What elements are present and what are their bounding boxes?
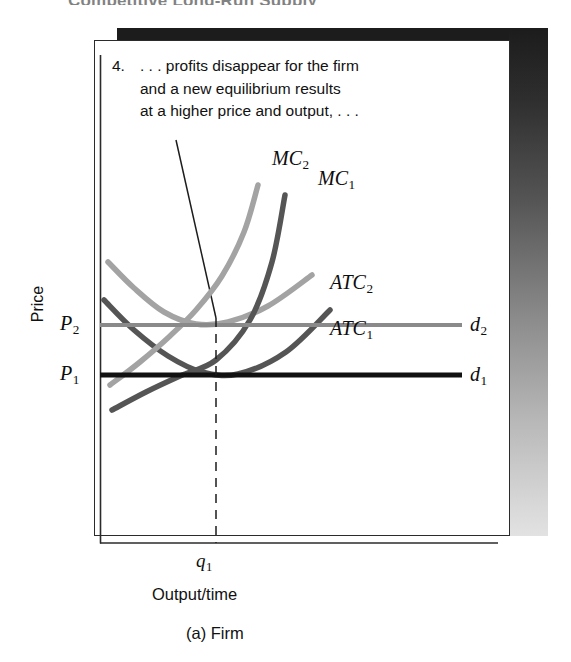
curve-label-atc2: ATC2	[330, 272, 373, 295]
y-axis-label: Price	[30, 264, 46, 344]
curve-mc1	[112, 195, 285, 410]
price-label-p1: P1	[60, 363, 79, 386]
curve-label-mc1: MC1	[318, 168, 355, 191]
figure-caption: (a) Firm	[186, 625, 244, 642]
curve-label-d2: d2	[470, 314, 487, 337]
price-label-p2: P2	[60, 313, 79, 336]
curve-label-d1: d1	[470, 364, 487, 387]
x-axis-label: Output/time	[152, 586, 237, 603]
curve-label-atc1: ATC1	[330, 318, 373, 341]
figure-root: Competitive Long-Run Supply 4. . . . pro…	[0, 0, 571, 662]
curve-label-mc2: MC2	[272, 148, 309, 171]
quantity-label-q1: q1	[196, 551, 212, 574]
